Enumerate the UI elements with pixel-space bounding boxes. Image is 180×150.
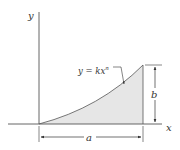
y-axis-label: y	[27, 10, 34, 21]
equation-exponent: n	[105, 65, 109, 71]
b-dimension-label: b	[151, 89, 157, 100]
curve-equation-label: y = kxn	[77, 65, 109, 76]
diagram-canvas: y x b a y = kxn	[0, 0, 180, 150]
a-dimension-label: a	[86, 132, 92, 143]
x-axis-label: x	[166, 122, 172, 133]
equation-base: y = kx	[77, 66, 105, 76]
equation-leader-line	[113, 67, 124, 84]
